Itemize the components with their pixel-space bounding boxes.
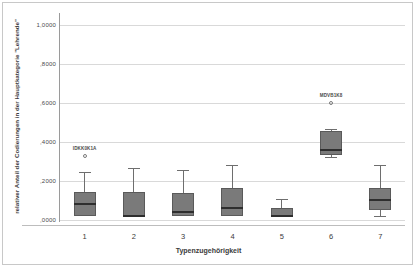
y-axis-tick-label: 1,0000	[36, 22, 56, 28]
whisker-cap-upper	[128, 168, 140, 169]
whisker-cap-upper	[226, 165, 238, 166]
boxplot-group[interactable]: MDVB1K8	[306, 15, 355, 220]
y-axis-tick-label: ,4000	[40, 139, 56, 145]
box-rect[interactable]	[320, 131, 342, 156]
boxplot-group[interactable]	[159, 15, 208, 220]
x-axis-line	[22, 225, 405, 226]
y-axis-tick-label: ,2000	[40, 178, 56, 184]
x-axis-tick-label: 5	[280, 232, 284, 241]
y-axis-tick-label: ,6000	[40, 100, 56, 106]
median-line	[369, 199, 391, 201]
median-line	[320, 149, 342, 151]
x-axis-tick-label: 3	[181, 232, 185, 241]
whisker-upper	[84, 172, 85, 193]
whisker-cap-upper	[79, 172, 91, 173]
median-line	[221, 207, 243, 209]
boxplot-group[interactable]	[356, 15, 405, 220]
whisker-cap-upper	[276, 199, 288, 200]
box-rect[interactable]	[123, 192, 145, 216]
boxplot-group[interactable]: IDKK0K1A	[60, 15, 109, 220]
whisker-cap-lower	[374, 216, 386, 217]
y-axis-tick-label: ,8000	[40, 61, 56, 67]
whisker-cap-upper	[325, 129, 337, 130]
x-axis-tick-label: 1	[83, 232, 87, 241]
median-line	[271, 215, 293, 217]
box-rect[interactable]	[221, 188, 243, 216]
outlier-label: IDKK0K1A	[73, 146, 97, 151]
x-axis-title: Typenzugehörigkeit	[0, 247, 417, 254]
whisker-cap-upper	[374, 165, 386, 166]
outlier-point[interactable]	[329, 101, 333, 105]
boxplot-group[interactable]	[208, 15, 257, 220]
whisker-upper	[281, 199, 282, 208]
whisker-upper	[183, 170, 184, 194]
gridline	[60, 220, 405, 221]
boxplot-figure: relativer Anteil der Codierungen in der …	[0, 0, 417, 269]
x-axis-tick-label: 7	[378, 232, 382, 241]
y-axis-tick-labels: 1,0000,8000,6000,4000,2000,0000	[20, 15, 56, 220]
outlier-label: MDVB1K8	[320, 93, 343, 98]
x-axis-tick-label: 4	[230, 232, 234, 241]
median-line	[74, 203, 96, 205]
median-line	[172, 211, 194, 213]
outlier-point[interactable]	[83, 154, 87, 158]
y-axis-tick-label: ,0000	[40, 217, 56, 223]
whisker-upper	[380, 165, 381, 189]
whisker-upper	[133, 168, 134, 193]
boxplot-group[interactable]	[257, 15, 306, 220]
whisker-cap-lower	[325, 157, 337, 158]
whisker-upper	[232, 165, 233, 189]
boxplot-group[interactable]	[109, 15, 158, 220]
plot-area: IDKK0K1AMDVB1K8	[60, 15, 405, 220]
x-axis-tick-label: 2	[132, 232, 136, 241]
whisker-cap-upper	[177, 170, 189, 171]
median-line	[123, 215, 145, 217]
x-axis-tick-label: 6	[329, 232, 333, 241]
